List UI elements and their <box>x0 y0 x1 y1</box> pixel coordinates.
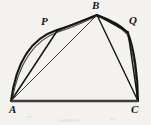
vertex-label-A: A <box>9 104 16 115</box>
geometry-figure: A P B Q C <box>0 0 151 125</box>
vertex-label-C: C <box>131 104 138 115</box>
chord-PB <box>57 15 97 31</box>
vertex-label-Q: Q <box>129 15 137 26</box>
scan-artifact <box>110 118 115 120</box>
scan-artifact <box>26 116 32 118</box>
chord-AP <box>11 31 57 101</box>
vertex-label-B: B <box>92 0 99 11</box>
arc-group <box>11 15 138 101</box>
scan-artifact <box>58 119 80 122</box>
vertex-label-P: P <box>41 16 48 27</box>
